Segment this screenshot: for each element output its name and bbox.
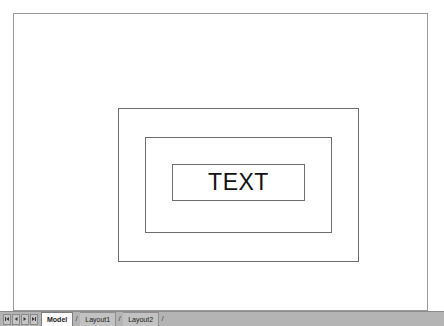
last-arrow-icon xyxy=(31,316,37,322)
last-layout-button[interactable] xyxy=(30,314,38,325)
tab-bar-filler xyxy=(166,312,444,326)
drawing-window: TEXT xyxy=(0,0,444,326)
tab-layout1-label: Layout1 xyxy=(85,316,110,323)
tab-separator-2: / xyxy=(116,312,123,326)
tab-separator-3: / xyxy=(159,312,166,326)
previous-layout-button[interactable] xyxy=(12,314,20,325)
layout-nav-buttons xyxy=(0,312,38,326)
first-layout-button[interactable] xyxy=(3,314,11,325)
inner-rectangle[interactable]: TEXT xyxy=(172,164,305,201)
tab-layout1[interactable]: Layout1 xyxy=(80,312,116,326)
tab-model[interactable]: Model xyxy=(41,312,73,326)
tab-layout2-label: Layout2 xyxy=(128,316,153,323)
layout-tabs: Model / Layout1 / Layout2 / xyxy=(41,312,166,326)
page-frame: TEXT xyxy=(13,13,428,311)
first-arrow-icon xyxy=(4,316,10,322)
tab-model-label: Model xyxy=(47,316,67,323)
previous-arrow-icon xyxy=(13,316,19,322)
tab-layout2[interactable]: Layout2 xyxy=(123,312,159,326)
drawing-canvas[interactable]: TEXT xyxy=(0,0,444,311)
next-arrow-icon xyxy=(22,316,28,322)
next-layout-button[interactable] xyxy=(21,314,29,325)
layout-tab-bar: Model / Layout1 / Layout2 / xyxy=(0,311,444,326)
text-entity[interactable]: TEXT xyxy=(208,171,269,194)
tab-separator-1: / xyxy=(73,312,80,326)
